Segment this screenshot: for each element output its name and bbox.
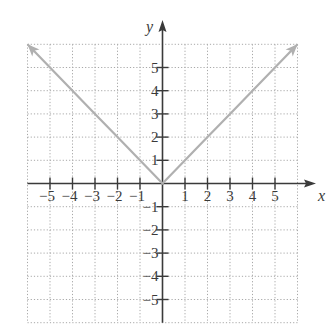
y-tick-label: −1 bbox=[143, 199, 159, 215]
y-tick-label: 2 bbox=[151, 129, 159, 145]
axes bbox=[28, 20, 317, 323]
y-tick-label: 1 bbox=[151, 152, 159, 168]
y-tick-label: −5 bbox=[143, 292, 159, 308]
x-axis-label: x bbox=[317, 187, 325, 204]
y-tick-label: −2 bbox=[143, 222, 159, 238]
x-tick-label: −3 bbox=[84, 188, 100, 204]
y-tick-label: −4 bbox=[143, 268, 159, 284]
y-tick-label: 3 bbox=[151, 106, 159, 122]
y-tick-label: −3 bbox=[143, 245, 159, 261]
x-tick-label: −2 bbox=[107, 188, 123, 204]
x-tick-label: 1 bbox=[181, 188, 189, 204]
x-tick-label: −4 bbox=[62, 188, 78, 204]
x-tick-label: −5 bbox=[39, 188, 55, 204]
x-tick-label: 3 bbox=[226, 188, 234, 204]
y-tick-label: 4 bbox=[151, 83, 159, 99]
x-tick-label: 2 bbox=[204, 188, 212, 204]
y-tick-label: 5 bbox=[151, 60, 159, 76]
absolute-value-graph: −5−4−3−2−112345 −5−4−3−2−112345 x y bbox=[0, 0, 334, 335]
x-tick-labels: −5−4−3−2−112345 bbox=[39, 188, 279, 204]
x-tick-label: 5 bbox=[271, 188, 279, 204]
y-axis-label: y bbox=[144, 18, 154, 36]
x-tick-label: 4 bbox=[249, 188, 257, 204]
